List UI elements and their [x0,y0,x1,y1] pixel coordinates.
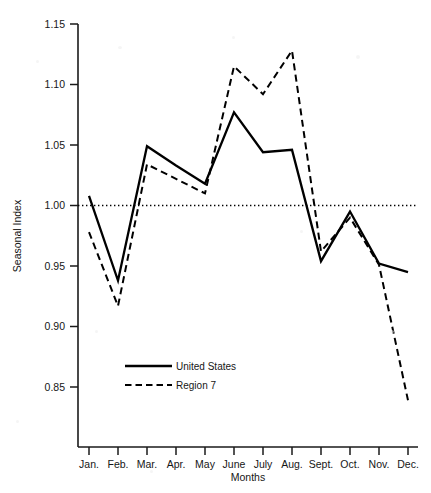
scan-speckle [36,60,39,63]
x-tick-label-may: May [195,458,216,470]
y-tick-label: 0.85 [45,381,66,393]
y-tick-label: 1.10 [45,78,66,90]
legend-label-region-7: Region 7 [176,380,216,391]
legend-label-united-states: United States [176,361,236,372]
scan-speckle [390,330,394,333]
scan-speckle [356,55,360,59]
y-tick-label: 0.90 [45,320,66,332]
x-tick-label-june: June [223,458,246,470]
x-tick-label-feb: Feb. [107,458,128,470]
y-tick-label: 1.15 [45,18,66,30]
scan-speckle [150,470,153,473]
scan-speckle [300,230,303,233]
x-tick-label-dec: Dec. [397,458,419,470]
x-axis-title: Months [231,471,265,483]
x-tick-label-sept: Sept. [309,458,334,470]
x-tick-label-oct: Oct. [340,458,359,470]
scan-speckle [16,420,19,423]
x-tick-label-apr: Apr. [167,458,186,470]
scan-speckle [232,36,235,39]
scan-speckle [118,46,122,49]
x-tick-label-nov: Nov. [369,458,390,470]
chart-figure: 0.850.900.951.001.051.101.15 Jan.Feb.Mar… [0,0,431,493]
y-tick-label: 1.05 [45,139,66,151]
x-tick-label-jan: Jan. [79,458,99,470]
seasonal-index-line-chart: 0.850.900.951.001.051.101.15 Jan.Feb.Mar… [0,0,431,493]
y-tick-label: 1.00 [45,199,66,211]
scan-speckle [95,330,98,333]
x-tick-label-aug: Aug. [281,458,303,470]
y-axis-title: Seasonal Index [11,199,23,272]
chart-background [0,0,431,493]
x-tick-label-mar: Mar. [137,458,157,470]
y-tick-label: 0.95 [45,260,66,272]
x-tick-label-july: July [254,458,273,470]
